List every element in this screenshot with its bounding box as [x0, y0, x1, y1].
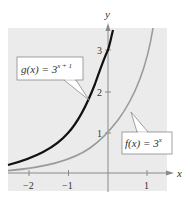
x-tick-label-neg2: −2 — [23, 180, 34, 191]
x-tick-label-1: 1 — [144, 180, 149, 191]
g-label-exponent: x + 1 — [56, 62, 72, 70]
y-tick-label-3: 3 — [97, 45, 102, 56]
y-tick-label-1: 1 — [97, 128, 102, 139]
svg-text:f(x) = 3x: f(x) = 3x — [125, 136, 163, 150]
x-tick-label-neg1: −1 — [62, 180, 73, 191]
g-label-text: g(x) = 3 — [21, 63, 58, 76]
x-axis-arrow-icon — [166, 171, 174, 176]
y-axis-arrow-icon — [106, 23, 111, 31]
exponential-functions-chart: x y −2 −1 1 1 2 3 g(x) = 3x + 1 f(x) = — [0, 0, 190, 202]
x-axis-label: x — [176, 167, 182, 179]
y-axis-label: y — [104, 8, 110, 20]
f-label-text: f(x) = 3 — [125, 137, 159, 150]
y-tick-label-2: 2 — [97, 87, 102, 98]
plot-area — [8, 28, 167, 191]
